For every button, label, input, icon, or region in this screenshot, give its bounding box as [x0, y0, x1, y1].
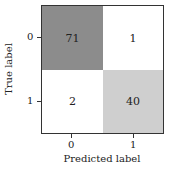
y-tick-label-0: 0	[27, 31, 33, 42]
cell-value: 40	[126, 95, 140, 108]
y-axis-label: True label	[3, 43, 14, 95]
x-tick-label-0: 0	[68, 139, 74, 150]
cell-true0-pred0: 71	[42, 6, 103, 70]
y-tick-mark-1	[37, 101, 41, 102]
x-tick-mark-0	[71, 134, 72, 138]
cell-value: 2	[69, 95, 76, 108]
cell-true0-pred1: 1	[103, 6, 163, 70]
x-tick-label-1: 1	[130, 139, 136, 150]
cell-value: 1	[130, 32, 137, 45]
y-tick-mark-0	[37, 37, 41, 38]
cell-value: 71	[66, 32, 80, 45]
confusion-matrix-plot: 71 1 2 40	[41, 5, 164, 134]
cell-true1-pred1: 40	[103, 70, 163, 133]
cell-true1-pred0: 2	[42, 70, 103, 133]
x-axis-label: Predicted label	[64, 153, 141, 164]
y-tick-label-1: 1	[27, 95, 33, 106]
x-tick-mark-1	[133, 134, 134, 138]
